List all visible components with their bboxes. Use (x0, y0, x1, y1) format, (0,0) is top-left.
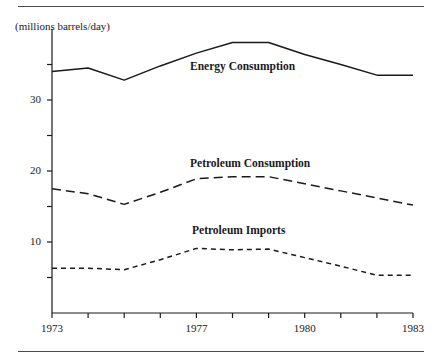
series-line-petroleum-imports (52, 248, 413, 275)
x-axis-tick-label: 1983 (393, 323, 433, 334)
y-axis-tick-label: 20 (17, 165, 41, 176)
series-line-petroleum-consumption (52, 177, 413, 205)
x-axis-tick-label: 1973 (32, 323, 72, 334)
series-label-energy-consumption: Energy Consumption (190, 60, 295, 73)
y-axis-tick-label: 30 (17, 94, 41, 105)
y-axis-tick-label: 10 (17, 236, 41, 247)
x-axis-tick-label: 1980 (285, 323, 325, 334)
x-axis-tick-label: 1977 (176, 323, 216, 334)
series-label-petroleum-consumption: Petroleum Consumption (190, 157, 310, 170)
chart-figure: (millions barrels/day) Energy Consumptio… (0, 0, 442, 359)
series-label-petroleum-imports: Petroleum Imports (192, 224, 285, 237)
line-chart-plot (0, 0, 442, 359)
